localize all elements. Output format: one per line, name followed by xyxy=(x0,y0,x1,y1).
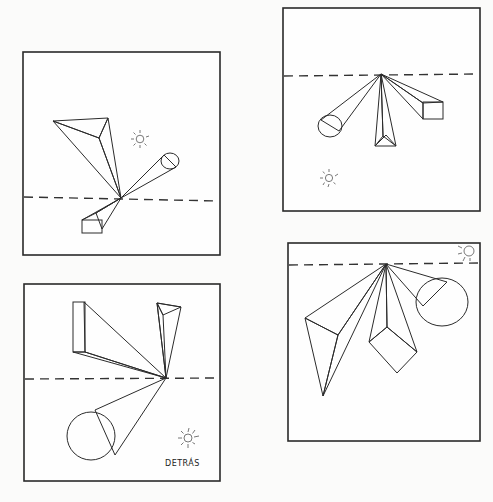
panel-bottom-right xyxy=(288,242,480,441)
panel-frame xyxy=(24,284,220,481)
drawing-canvas: DETRÁS xyxy=(0,0,493,502)
panel-top-left xyxy=(23,52,220,255)
panel-frame xyxy=(283,8,480,211)
panel-label: DETRÁS xyxy=(165,457,200,468)
panel-top-right xyxy=(283,8,480,211)
panel-frame xyxy=(23,52,220,255)
panel-bottom-left: DETRÁS xyxy=(24,284,220,481)
